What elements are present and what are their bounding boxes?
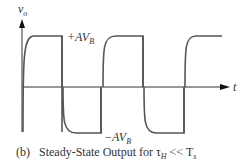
y-axis-arrow-icon [19,19,25,28]
square-wave-output [23,36,222,133]
x-axis-label: t [233,80,236,95]
y-axis-label: vo [18,2,27,18]
t-axis-arrow-icon [220,84,230,90]
high-level-label: +AVB [67,30,94,46]
low-level-label: −AVB [104,130,131,146]
figure-caption: (b) Steady-State Output for τH << Ts [16,145,196,161]
